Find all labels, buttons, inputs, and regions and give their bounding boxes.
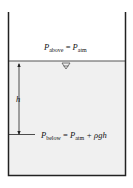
hydrostatic-diagram: Pabove = Patm h Pbelow = Patm + ρgh (0, 0, 133, 188)
depth-label: h (16, 95, 20, 104)
pressure-above-label: Pabove = Patm (44, 43, 87, 53)
pressure-below-label: Pbelow = Patm + ρgh (41, 131, 107, 141)
water-fill (9, 61, 125, 175)
